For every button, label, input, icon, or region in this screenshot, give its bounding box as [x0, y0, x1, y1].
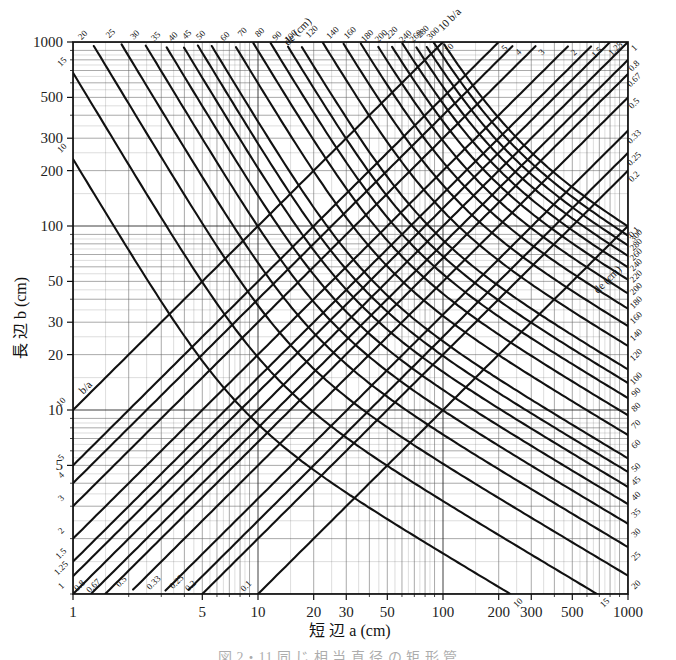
x-tick-label: 200 [487, 604, 510, 620]
y-axis-title: 長 辺 b (cm) [12, 277, 30, 359]
figure-container: 1510203050100200300500100051020305010020… [0, 0, 676, 660]
y-tick-label: 500 [41, 89, 64, 105]
x-tick-label: 5 [199, 604, 207, 620]
y-axis-title-text: 長 辺 b (cm) [12, 277, 30, 359]
x-tick-label: 100 [432, 604, 455, 620]
x-tick-label: 500 [561, 604, 584, 620]
x-tick-label: 300 [520, 604, 543, 620]
y-tick-label: 20 [48, 347, 63, 363]
x-tick-label: 1 [69, 604, 77, 620]
x-tick-label: 30 [339, 604, 354, 620]
x-axis-title-text: 短 辺 a (cm) [309, 622, 390, 640]
nomograph-svg: 1510203050100200300500100051020305010020… [0, 0, 676, 660]
y-tick-label: 200 [41, 163, 64, 179]
x-tick-label: 50 [380, 604, 395, 620]
x-axis-title: 短 辺 a (cm) [309, 622, 390, 640]
y-tick-label: 30 [48, 314, 63, 330]
x-tick-label: 1000 [613, 604, 643, 620]
figure-caption: 図 2・11 同 じ 相 当 直 径 の 矩 形 管 [0, 646, 676, 660]
x-tick-label: 20 [306, 604, 321, 620]
y-tick-label: 1000 [33, 34, 63, 50]
x-tick-label: 10 [251, 604, 266, 620]
y-tick-label: 100 [41, 218, 64, 234]
y-tick-label: 50 [48, 273, 63, 289]
